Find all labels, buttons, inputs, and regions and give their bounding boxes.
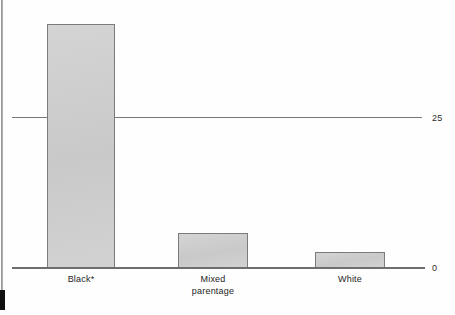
bar-chart-plot-area: 25 0 Black* Mixed parentage White <box>0 0 455 315</box>
x-category-label-black: Black* <box>31 273 131 285</box>
bar-black <box>47 24 115 268</box>
x-category-label-mixed-parentage: Mixed parentage <box>163 273 263 297</box>
bar-white <box>315 252 385 268</box>
x-axis-baseline <box>12 267 425 269</box>
x-category-label-mixed-parentage-line1: Mixed <box>163 273 263 285</box>
x-category-label-white-line1: White <box>300 273 400 285</box>
y-tick-label-0: 0 <box>432 263 437 273</box>
bar-mixed-parentage <box>178 233 248 268</box>
x-category-label-white: White <box>300 273 400 285</box>
chart-screenshot: 25 0 Black* Mixed parentage White <box>0 0 455 315</box>
x-category-label-black-line1: Black* <box>31 273 131 285</box>
x-category-label-mixed-parentage-line2: parentage <box>163 285 263 297</box>
y-tick-label-25: 25 <box>432 113 442 123</box>
